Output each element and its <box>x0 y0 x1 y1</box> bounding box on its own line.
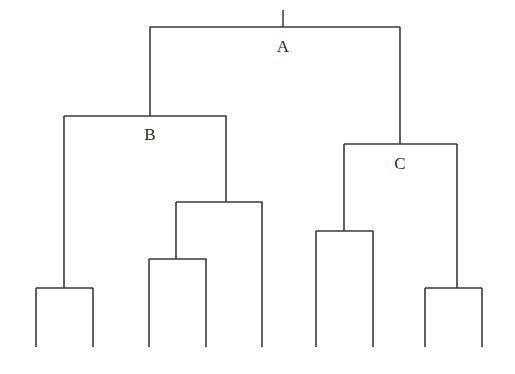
tree-edge-group <box>36 27 482 347</box>
node-label-c: C <box>394 155 406 172</box>
dendrogram-figure: A B C <box>0 0 515 374</box>
dendrogram-canvas <box>0 0 515 374</box>
node-label-b: B <box>144 126 156 143</box>
node-label-a: A <box>277 38 290 55</box>
tree-merge-bar-group <box>36 27 482 288</box>
